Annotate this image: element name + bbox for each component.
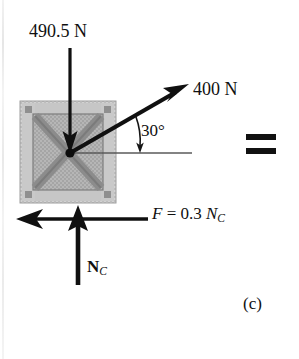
applied-force-label: 400 N — [193, 80, 238, 98]
friction-force-label: F = 0.3 NC — [152, 205, 225, 225]
equals-bar-top — [246, 134, 276, 140]
friction-normal-symbol: N — [206, 204, 217, 223]
normal-subscript: C — [99, 265, 107, 278]
friction-normal-subscript: C — [217, 212, 225, 225]
point-of-application-dot — [65, 148, 74, 157]
weight-force-label: 490.5 N — [29, 22, 87, 40]
equals-sign — [246, 132, 276, 158]
angle-label: 30° — [141, 122, 165, 139]
normal-symbol: N — [87, 257, 99, 276]
friction-coefficient: 0.3 — [180, 204, 206, 223]
free-body-diagram-figure: 490.5 N 400 N 30° F = 0.3 NC NC (c) — [0, 0, 299, 359]
friction-symbol: F — [152, 204, 162, 223]
normal-force-label: NC — [87, 258, 107, 278]
part-label: (c) — [243, 295, 262, 312]
friction-equals: = — [162, 204, 180, 223]
equals-bar-bottom — [246, 148, 276, 154]
normal-force-arrow — [68, 205, 88, 285]
